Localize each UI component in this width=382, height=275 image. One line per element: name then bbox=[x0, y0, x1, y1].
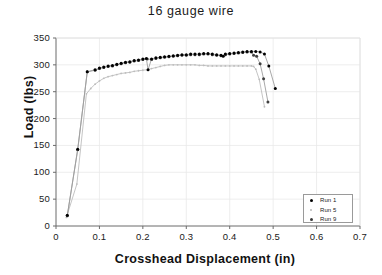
chart-figure: 16 gauge wire Load (lbs) Crosshead Displ… bbox=[0, 0, 382, 275]
legend-item-run-1: Run 1 bbox=[304, 196, 352, 205]
series-run-5 bbox=[66, 64, 266, 218]
plot-canvas bbox=[0, 0, 382, 275]
series-run-1 bbox=[66, 50, 277, 217]
data-series-layer bbox=[66, 50, 277, 218]
chart-legend: Run 1 Run 5 Run 9 bbox=[303, 194, 353, 223]
legend-marker-icon bbox=[304, 215, 320, 223]
legend-label: Run 5 bbox=[320, 206, 337, 214]
series-run-9 bbox=[66, 50, 270, 217]
legend-label: Run 9 bbox=[320, 215, 337, 223]
legend-label: Run 1 bbox=[320, 196, 337, 204]
legend-marker-icon bbox=[304, 206, 320, 214]
legend-marker-icon bbox=[304, 196, 320, 204]
legend-item-run-9: Run 9 bbox=[304, 215, 352, 224]
legend-item-run-5: Run 5 bbox=[304, 205, 352, 214]
